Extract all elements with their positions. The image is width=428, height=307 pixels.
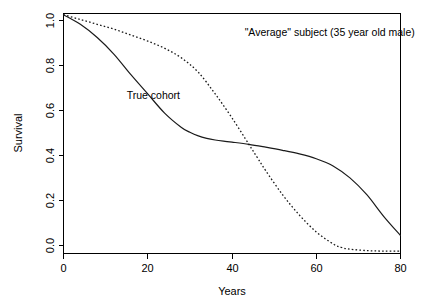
series-line-true-cohort — [64, 15, 401, 236]
x-tick-label-0: 0 — [60, 262, 66, 274]
x-tick-label-80: 80 — [394, 262, 406, 274]
plot-canvas: 0 20 40 60 80 Years 0.0 0.2 0.4 0.6 0.8 … — [0, 0, 428, 307]
y-tick-label-0.8: 0.8 — [44, 58, 56, 73]
x-axis-title: Years — [218, 285, 246, 297]
y-tick-label-0.4: 0.4 — [44, 148, 56, 163]
y-tick-label-0.2: 0.2 — [44, 193, 56, 208]
plot-frame — [64, 14, 401, 254]
x-axis-ticks — [64, 254, 401, 259]
x-tick-label-20: 20 — [141, 262, 153, 274]
y-tick-label-1.0: 1.0 — [44, 13, 56, 28]
annotation-average-subject: "Average" subject (35 year old male) — [245, 26, 415, 38]
y-tick-label-0.0: 0.0 — [44, 238, 56, 253]
annotation-true-cohort: True cohort — [127, 89, 180, 101]
x-tick-label-40: 40 — [226, 262, 238, 274]
y-axis-ticks — [59, 21, 64, 246]
y-axis-title: Survival — [12, 113, 24, 152]
y-tick-label-0.6: 0.6 — [44, 103, 56, 118]
x-tick-label-60: 60 — [310, 262, 322, 274]
survival-chart-figure: 0 20 40 60 80 Years 0.0 0.2 0.4 0.6 0.8 … — [0, 0, 428, 307]
series-line-average-subject — [64, 15, 401, 251]
